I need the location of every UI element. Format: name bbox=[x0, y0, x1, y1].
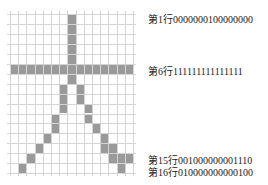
filled-cell bbox=[108, 64, 116, 74]
grid-hline bbox=[7, 104, 136, 105]
grid-hline bbox=[7, 44, 136, 45]
grid-hline bbox=[7, 123, 136, 124]
filled-cell bbox=[26, 64, 34, 74]
grid-hline bbox=[7, 114, 136, 115]
grid-hline bbox=[7, 64, 136, 65]
filled-cell bbox=[67, 14, 75, 24]
filled-cell bbox=[117, 153, 125, 163]
row-1-label: 第1行0000000100000000 bbox=[148, 11, 253, 26]
filled-cell bbox=[125, 64, 133, 74]
filled-cell bbox=[18, 64, 26, 74]
filled-cell bbox=[117, 64, 125, 74]
grid-hline bbox=[7, 163, 136, 164]
filled-cell bbox=[59, 64, 67, 74]
filled-cell bbox=[92, 123, 100, 133]
filled-cell bbox=[84, 104, 92, 114]
filled-cell bbox=[59, 84, 67, 94]
filled-cell bbox=[76, 64, 84, 74]
grid-hline bbox=[7, 74, 136, 75]
filled-cell bbox=[35, 143, 43, 153]
filled-cell bbox=[67, 34, 75, 44]
filled-cell bbox=[43, 64, 51, 74]
grid-hline bbox=[7, 34, 136, 35]
filled-cell bbox=[100, 64, 108, 74]
filled-cell bbox=[67, 24, 75, 34]
filled-cell bbox=[43, 133, 51, 143]
filled-cell bbox=[67, 54, 75, 64]
filled-cell bbox=[100, 143, 108, 153]
grid-hline bbox=[7, 24, 136, 25]
filled-cell bbox=[108, 143, 116, 153]
grid-hline bbox=[7, 14, 136, 15]
filled-cell bbox=[100, 133, 108, 143]
filled-cell bbox=[10, 64, 18, 74]
filled-cell bbox=[67, 64, 75, 74]
filled-cell bbox=[67, 44, 75, 54]
filled-cell bbox=[76, 84, 84, 94]
grid-hline bbox=[7, 153, 136, 154]
filled-cell bbox=[18, 163, 26, 173]
filled-cell bbox=[59, 104, 67, 114]
filled-cell bbox=[51, 123, 59, 133]
filled-cell bbox=[108, 153, 116, 163]
filled-cell bbox=[59, 94, 67, 104]
filled-cell bbox=[76, 94, 84, 104]
pixel-grid bbox=[10, 14, 133, 173]
grid-hline bbox=[7, 173, 136, 174]
row-16-label: 第16行010000000000100 bbox=[148, 164, 253, 179]
grid-hline bbox=[7, 143, 136, 144]
filled-cell bbox=[26, 153, 34, 163]
grid-hline bbox=[7, 94, 136, 95]
filled-cell bbox=[51, 64, 59, 74]
grid-hline bbox=[7, 54, 136, 55]
grid-hline bbox=[7, 133, 136, 134]
filled-cell bbox=[92, 64, 100, 74]
filled-cell bbox=[125, 153, 133, 163]
filled-cell bbox=[84, 64, 92, 74]
filled-cell bbox=[117, 163, 125, 173]
filled-cell bbox=[51, 114, 59, 124]
filled-cell bbox=[84, 114, 92, 124]
filled-cell bbox=[67, 74, 75, 84]
row-6-label: 第6行111111111111111 bbox=[148, 63, 243, 78]
grid-hline bbox=[7, 84, 136, 85]
filled-cell bbox=[35, 64, 43, 74]
